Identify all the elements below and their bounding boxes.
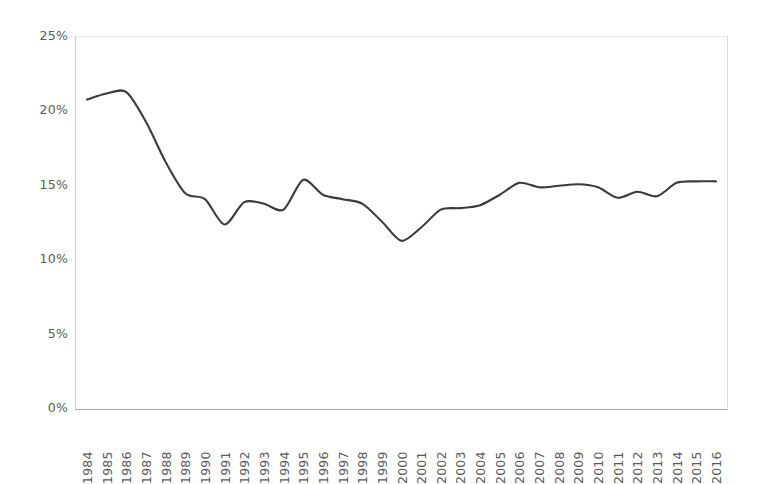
x-tick-label: 2003 [454, 470, 468, 484]
x-tick-label: 2000 [396, 470, 410, 484]
x-tick-label: 2002 [435, 470, 449, 484]
x-tick-label: 1984 [81, 470, 95, 484]
x-tick-label: 1999 [376, 470, 390, 484]
plot-area [75, 36, 728, 410]
x-tick-label: 1998 [356, 470, 370, 484]
x-tick-label: 1985 [101, 470, 115, 484]
x-tick-label: 1992 [238, 470, 252, 484]
y-axis: 25%20%15%10%5%0% [0, 0, 68, 476]
x-tick-label: 2007 [533, 470, 547, 484]
x-tick-label: 2016 [710, 470, 724, 484]
x-tick-label: 1994 [278, 470, 292, 484]
y-tick-label: 10% [0, 252, 68, 265]
x-axis: 1984198519861987198819891990199119921993… [75, 412, 726, 474]
x-tick-label: 2012 [631, 470, 645, 484]
x-tick-label: 1989 [179, 470, 193, 484]
x-tick-label: 1995 [297, 470, 311, 484]
x-tick-label: 1996 [317, 470, 331, 484]
x-tick-label: 2004 [474, 470, 488, 484]
x-tick-label: 1993 [258, 470, 272, 484]
y-tick-label: 0% [0, 401, 68, 414]
x-tick-label: 2006 [513, 470, 527, 484]
x-tick-label: 2005 [494, 470, 508, 484]
x-tick-label: 1990 [199, 470, 213, 484]
x-tick-label: 2010 [592, 470, 606, 484]
x-tick-label: 2001 [415, 470, 429, 484]
x-tick-label: 1991 [219, 470, 233, 484]
x-tick-label: 1986 [120, 470, 134, 484]
x-tick-label: 2011 [612, 470, 626, 484]
x-tick-label: 1997 [337, 470, 351, 484]
y-tick-label: 5% [0, 327, 68, 340]
series-path [87, 90, 716, 240]
x-tick-label: 2009 [572, 470, 586, 484]
x-tick-label: 1988 [160, 470, 174, 484]
series-line [76, 37, 727, 409]
x-tick-label: 2014 [671, 470, 685, 484]
x-tick-label: 2015 [690, 470, 704, 484]
x-tick-label: 2013 [651, 470, 665, 484]
x-tick-label: 1987 [140, 470, 154, 484]
y-tick-label: 15% [0, 178, 68, 191]
y-tick-label: 25% [0, 29, 68, 42]
y-tick-label: 20% [0, 103, 68, 116]
x-tick-label: 2008 [553, 470, 567, 484]
